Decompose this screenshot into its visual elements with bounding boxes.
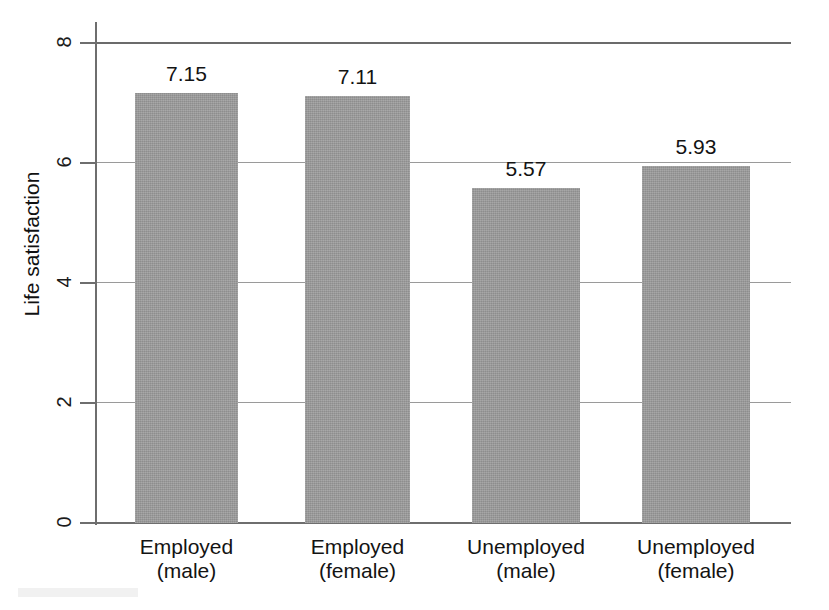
x-category-line1: Unemployed [467, 535, 585, 558]
x-category-label-employed-female: Employed (female) [285, 535, 430, 582]
bar-value-employed-female: 7.11 [305, 66, 410, 87]
scan-artifact [18, 588, 138, 597]
y-tick-label-2: 2 [54, 390, 74, 414]
bar-employed-female [305, 96, 410, 523]
y-tick-label-4: 4 [54, 270, 74, 294]
bar-value-employed-male: 7.15 [135, 63, 238, 84]
y-tick-label-0: 0 [54, 510, 74, 534]
x-category-line2: (male) [446, 559, 606, 583]
bar-value-unemployed-male: 5.57 [472, 158, 580, 179]
y-tick-label-6: 6 [54, 150, 74, 174]
y-tick-mark-4 [80, 282, 96, 284]
y-axis-title: Life satisfaction [20, 149, 44, 339]
y-tick-mark-0 [80, 522, 96, 524]
bar-chart-figure: 8 6 4 2 0 Life satisfaction 7.15 7.11 5.… [0, 0, 829, 610]
y-tick-label-8: 8 [54, 30, 74, 54]
x-category-line1: Employed [140, 535, 233, 558]
x-category-line2: (male) [115, 559, 258, 583]
y-axis-line [95, 22, 97, 525]
bar-employed-male [135, 93, 238, 523]
y-tick-mark-8 [80, 42, 96, 44]
bar-unemployed-male [472, 188, 580, 523]
y-tick-mark-6 [80, 162, 96, 164]
x-category-label-unemployed-female: Unemployed (female) [616, 535, 776, 582]
bar-unemployed-female [642, 166, 750, 523]
bar-value-unemployed-female: 5.93 [642, 136, 750, 157]
x-category-line2: (female) [616, 559, 776, 583]
x-category-label-unemployed-male: Unemployed (male) [446, 535, 606, 582]
x-category-line1: Unemployed [637, 535, 755, 558]
gridline-8 [95, 42, 791, 44]
y-tick-mark-2 [80, 402, 96, 404]
x-category-line1: Employed [311, 535, 404, 558]
x-category-label-employed-male: Employed (male) [115, 535, 258, 582]
x-category-line2: (female) [285, 559, 430, 583]
